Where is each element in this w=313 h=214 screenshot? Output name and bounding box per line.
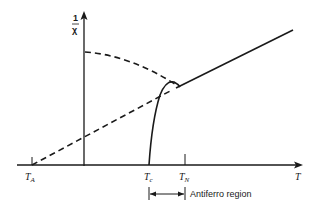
tick-label-TA: TA: [25, 171, 36, 184]
x-axis-label: T: [295, 171, 302, 182]
dashed-upper-curve: [85, 52, 178, 86]
dashed-curie-weiss-line: [32, 90, 172, 165]
solid-paramagnetic-line: [176, 30, 293, 88]
tick-label-Tc: Tc: [144, 171, 154, 184]
region-arrow-right-icon: [178, 192, 184, 197]
region-label: Antiferro region: [190, 189, 252, 199]
region-arrow-left-icon: [150, 192, 156, 197]
y-label-numerator: 1: [73, 13, 78, 23]
susceptibility-diagram: 1 χ T TA Tc TN Antiferro region: [0, 0, 313, 214]
tick-label-TN: TN: [179, 171, 190, 184]
y-label-denominator: χ: [72, 25, 78, 35]
